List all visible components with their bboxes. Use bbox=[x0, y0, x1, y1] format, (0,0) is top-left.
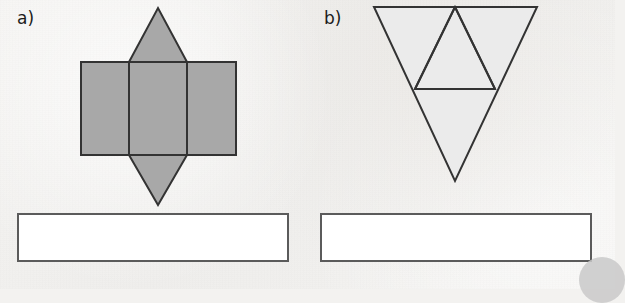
answer-box-b[interactable] bbox=[320, 213, 592, 262]
bottom-triangle bbox=[129, 155, 187, 205]
question-item-a: a) bbox=[0, 0, 307, 289]
top-triangle bbox=[129, 8, 187, 62]
middle-rectangle bbox=[129, 62, 187, 155]
question-item-b: b) bbox=[307, 0, 615, 289]
net-figure-a bbox=[0, 0, 307, 215]
page-corner-blob bbox=[579, 257, 625, 303]
net-figure-b bbox=[307, 0, 615, 215]
answer-box-a[interactable] bbox=[17, 213, 289, 262]
right-rectangle bbox=[187, 62, 236, 155]
left-rectangle bbox=[81, 62, 129, 155]
